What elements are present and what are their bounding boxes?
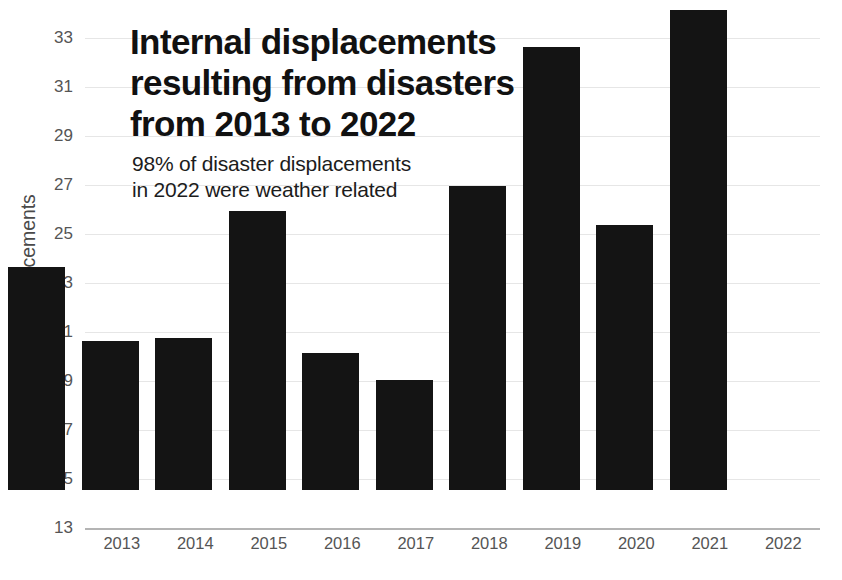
bar-chart: Millions of displacements 13151719212325… (0, 0, 842, 580)
chart-title-line: Internal displacements (130, 22, 730, 63)
chart-title-line: from 2013 to 2022 (130, 104, 730, 145)
gridline (85, 528, 820, 530)
chart-subtitle: 98% of disaster displacementsin 2022 wer… (132, 151, 730, 204)
title-block: Internal displacementsresulting from dis… (130, 22, 730, 203)
x-tick-label: 2016 (302, 534, 382, 553)
x-tick-label: 2018 (449, 534, 529, 553)
bar-2014 (82, 341, 139, 490)
x-tick-label: 2013 (82, 534, 162, 553)
bar-2016 (229, 211, 286, 490)
bar-2021 (596, 225, 653, 490)
chart-title-line: resulting from disasters (130, 63, 730, 104)
x-tick-label: 2015 (229, 534, 309, 553)
bar-2015 (155, 338, 212, 490)
bar-2019 (449, 186, 506, 490)
bar-2018 (376, 380, 433, 490)
y-tick-label: 13 (33, 519, 73, 536)
x-tick-label: 2022 (743, 534, 823, 553)
chart-title: Internal displacementsresulting from dis… (130, 22, 730, 145)
x-axis-labels: 2013201420152016201720182019202020212022 (85, 534, 820, 564)
x-tick-label: 2014 (155, 534, 235, 553)
bar-2013 (8, 267, 65, 490)
chart-subtitle-line: 98% of disaster displacements (132, 151, 730, 177)
bar-2017 (302, 353, 359, 490)
x-tick-label: 2021 (670, 534, 750, 553)
chart-subtitle-line: in 2022 were weather related (132, 177, 730, 203)
x-tick-label: 2017 (376, 534, 456, 553)
x-tick-label: 2019 (523, 534, 603, 553)
x-tick-label: 2020 (596, 534, 676, 553)
